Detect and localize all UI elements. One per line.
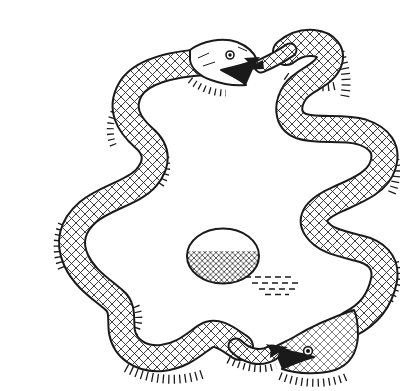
snakes-and-egg-illustration <box>40 16 400 391</box>
egg <box>185 229 299 295</box>
illustration-canvas <box>40 16 400 391</box>
egg-shadow-hatch <box>245 277 299 295</box>
bottom-snake-pupil <box>306 349 310 353</box>
top-snake-pupil <box>228 53 231 56</box>
bottom-snake-body <box>286 43 384 324</box>
egg-underside-shading <box>185 251 261 285</box>
top-snake-head <box>190 40 257 85</box>
top-snake-body <box>72 62 240 358</box>
bottom-snake-head <box>273 310 358 373</box>
